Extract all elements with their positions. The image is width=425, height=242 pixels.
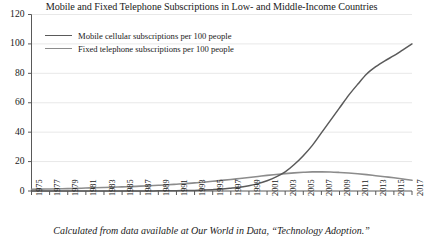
legend-label: Mobile cellular subscriptions per 100 pe… — [78, 31, 231, 41]
x-axis-tick-label: 1995 — [216, 179, 225, 196]
x-axis-tick-label: 2001 — [271, 179, 280, 196]
x-axis-tick-label: 1987 — [144, 179, 153, 196]
x-axis-tick-label: 2011 — [361, 180, 370, 196]
x-axis-tick-label: 1997 — [234, 179, 243, 196]
x-axis-tick-label: 2007 — [325, 179, 334, 196]
y-axis-tick-label: 0 — [1, 186, 25, 196]
x-axis-tick-label: 2017 — [416, 179, 425, 196]
y-axis-tick-label: 100 — [1, 38, 25, 48]
legend-line-swatch — [45, 48, 72, 49]
x-axis-tick-label: 1993 — [198, 179, 207, 196]
y-axis-tick-label: 80 — [1, 68, 25, 78]
x-axis-tick-label: 2013 — [379, 179, 388, 196]
x-axis-tick-label: 1981 — [89, 179, 98, 196]
x-axis-tick-label: 2005 — [307, 179, 316, 196]
x-axis-tick-labels: 1975197719791981198319851987198919911993… — [0, 195, 423, 225]
y-axis-tick-label: 60 — [1, 97, 25, 107]
x-axis-tick-label: 1989 — [162, 179, 171, 196]
series-line — [32, 44, 413, 191]
chart-title: Mobile and Fixed Telephone Subscriptions… — [0, 1, 423, 13]
plot-area: 020406080100120 Mobile cellular subscrip… — [0, 13, 423, 195]
x-axis-tick-label: 2015 — [397, 179, 406, 196]
x-axis-tick-label: 1977 — [53, 179, 62, 196]
x-axis-tick-label: 2009 — [343, 179, 352, 196]
y-axis-tick-label: 20 — [1, 156, 25, 166]
legend-line-swatch — [45, 35, 72, 36]
x-axis-tick-label: 1991 — [180, 179, 189, 196]
chart-caption: Calculated from data available at Our Wo… — [0, 224, 423, 237]
legend-item: Mobile cellular subscriptions per 100 pe… — [45, 30, 305, 41]
y-axis-tick-label: 40 — [1, 127, 25, 137]
x-axis-tick-label: 1999 — [253, 179, 262, 196]
x-axis-tick-label: 1979 — [71, 179, 80, 196]
x-axis-tick-label: 1983 — [108, 179, 117, 196]
legend-label: Fixed telephone subscriptions per 100 pe… — [78, 44, 234, 54]
y-axis-tick-label: 120 — [1, 9, 25, 19]
x-axis-tick-label: 2003 — [289, 179, 298, 196]
chart-legend: Mobile cellular subscriptions per 100 pe… — [45, 30, 305, 56]
x-axis-tick-label: 1985 — [126, 179, 135, 196]
x-axis-tick-label: 1975 — [35, 179, 44, 196]
legend-item: Fixed telephone subscriptions per 100 pe… — [45, 43, 305, 54]
